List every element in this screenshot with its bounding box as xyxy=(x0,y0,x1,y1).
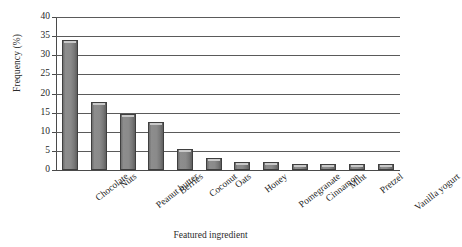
plot-area: 0510152025303540 xyxy=(56,17,400,170)
bar xyxy=(62,40,78,170)
x-axis-title: Featured ingredient xyxy=(0,230,421,240)
y-tick-label: 35 xyxy=(41,31,51,41)
bar xyxy=(120,114,136,170)
bar xyxy=(349,164,365,170)
bar xyxy=(234,162,250,170)
x-axis-line xyxy=(56,170,400,171)
bar xyxy=(292,164,308,170)
y-tick-label: 5 xyxy=(45,146,50,156)
y-tick-mark xyxy=(52,170,56,171)
bar xyxy=(263,162,279,170)
bar-series xyxy=(56,17,400,170)
bar xyxy=(177,149,193,170)
bar xyxy=(148,122,164,170)
y-tick-label: 40 xyxy=(41,12,51,22)
y-axis-title: Frequency (%) xyxy=(12,8,22,118)
y-tick-label: 25 xyxy=(41,70,51,80)
bar xyxy=(206,158,222,170)
y-tick-label: 15 xyxy=(41,108,51,118)
y-tick-label: 30 xyxy=(41,51,51,61)
x-tick-label: Oats xyxy=(233,172,253,190)
y-tick-label: 10 xyxy=(41,127,51,137)
x-tick-label: Vanilla yogurt xyxy=(413,172,461,213)
y-tick-label: 0 xyxy=(45,165,50,175)
y-tick-label: 20 xyxy=(41,89,51,99)
bar xyxy=(91,102,107,170)
x-axis-tick-labels: ChocolateNutsPeanut butterBerriesCoconut… xyxy=(56,172,416,230)
x-tick-label: Pretzel xyxy=(379,172,406,196)
bar xyxy=(378,164,394,170)
bar xyxy=(320,164,336,170)
x-tick-label: Berries xyxy=(178,172,205,196)
x-tick-label: Coconut xyxy=(208,172,239,199)
x-tick-label: Honey xyxy=(264,172,290,195)
